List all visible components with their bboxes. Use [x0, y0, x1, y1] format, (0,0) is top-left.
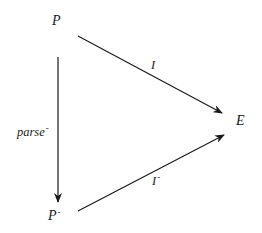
- edge-label-i: I: [151, 59, 155, 72]
- edge-label-i-minus: I-: [152, 175, 160, 188]
- edge-label-parse-minus: parse-: [17, 126, 49, 139]
- edge-parse-superscript: -: [46, 123, 49, 133]
- node-e-label: E: [236, 113, 245, 128]
- edge-parse-label: parse: [17, 125, 45, 139]
- node-p: P: [52, 14, 61, 28]
- node-p-label: P: [52, 13, 61, 28]
- diagram-canvas: [0, 0, 262, 233]
- edge-i-minus-superscript: -: [157, 172, 160, 182]
- edge-i-label: I: [151, 58, 155, 72]
- node-p-minus-superscript: -: [58, 207, 61, 217]
- node-p-minus: P-: [48, 209, 61, 223]
- edge-pminus-to-e-arrow: [78, 135, 224, 211]
- node-p-minus-label: P: [48, 208, 57, 223]
- edge-p-to-e-arrow: [78, 36, 222, 113]
- edge-i-minus-label: I: [152, 174, 156, 188]
- node-e: E: [236, 114, 245, 128]
